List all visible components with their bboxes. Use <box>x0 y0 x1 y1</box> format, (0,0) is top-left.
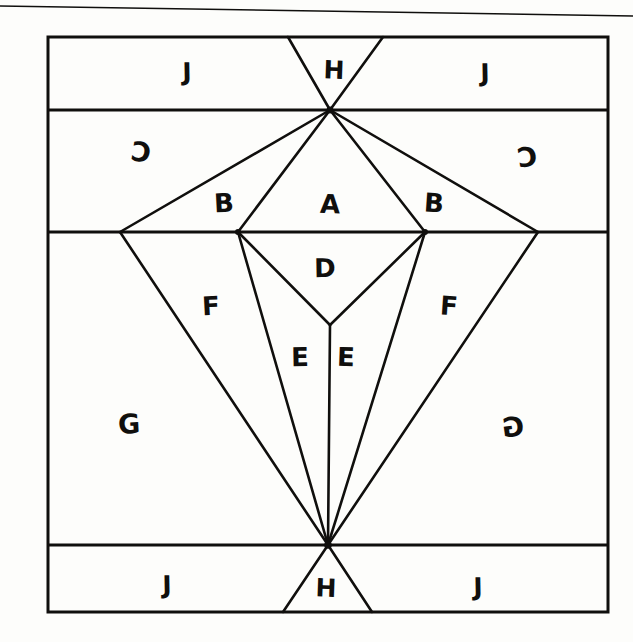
region-label-b-left: B <box>213 189 234 216</box>
vertex-dots <box>235 107 428 549</box>
page-edge-line <box>0 6 633 16</box>
region-label-d-center: D <box>314 255 336 281</box>
outer-left-to-bottom <box>120 232 328 545</box>
region-label-c-right: C <box>515 142 538 171</box>
region-label-a-center: A <box>319 191 340 218</box>
diagram-page: JHJCCBABDFFEEGGJHJ <box>0 0 633 642</box>
region-label-f-right: F <box>439 292 459 319</box>
region-label-j-top-right: J <box>480 60 490 85</box>
region-label-f-left: F <box>201 293 220 320</box>
vertex-bottom-apex <box>324 541 332 549</box>
region-label-c-left: C <box>129 137 153 167</box>
region-label-e-left: E <box>291 344 309 370</box>
region-label-b-right: B <box>423 189 445 216</box>
page-edge-line <box>0 6 633 16</box>
region-label-j-bottom-right: J <box>473 574 483 599</box>
region-label-j-top-left: J <box>182 59 192 84</box>
apex-to-inner-right <box>330 110 425 232</box>
region-label-h-bottom: H <box>315 575 337 601</box>
diamond-to-bottom-apex <box>328 325 330 545</box>
vertex-top-apex <box>327 107 334 114</box>
outer-right-to-bottom <box>328 232 538 545</box>
region-label-g-left: G <box>117 410 141 438</box>
apex-to-inner-left <box>238 110 330 232</box>
geometric-partition-figure <box>0 0 633 642</box>
vertex-mid-inner-right <box>422 229 428 235</box>
region-label-h-top: H <box>323 57 345 83</box>
partition-segments <box>120 37 538 612</box>
region-label-e-right: E <box>337 344 356 371</box>
region-label-j-bottom-left: J <box>162 572 172 597</box>
vertex-mid-inner-left <box>235 229 241 235</box>
region-label-g-right: G <box>500 412 526 442</box>
